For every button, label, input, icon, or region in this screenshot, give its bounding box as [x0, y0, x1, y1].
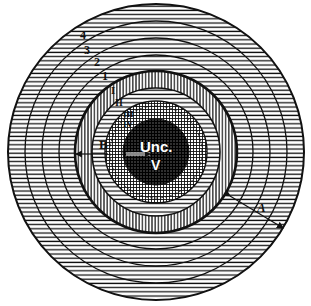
label-ring-3: 3 [84, 43, 90, 57]
label-ring-4: 4 [80, 28, 86, 42]
label-band-I: I [111, 84, 115, 96]
label-band-III: III [123, 109, 134, 119]
label-ring-1: 1 [102, 69, 108, 83]
concentric-zone-diagram: 4 3 2 1 I II III IV B A Unc. V [0, 0, 311, 306]
label-a: A [256, 200, 266, 215]
label-band-IV: IV [123, 119, 134, 129]
label-unc: Unc. [140, 138, 173, 155]
diagram-svg: 4 3 2 1 I II III IV B A Unc. V [0, 0, 311, 306]
label-band-II: II [115, 97, 123, 108]
label-b: B [99, 137, 108, 152]
label-v: V [151, 157, 161, 173]
label-ring-2: 2 [94, 55, 100, 69]
